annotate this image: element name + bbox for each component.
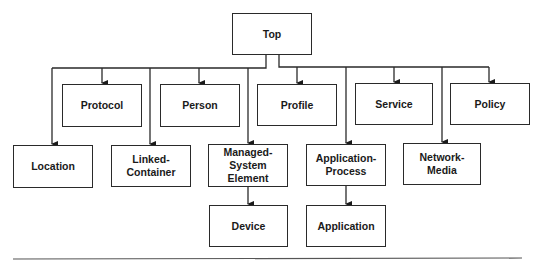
class-hierarchy-diagram: Top Protocol Person Profile Service Poli… xyxy=(0,0,544,264)
node-person: Person xyxy=(160,84,240,127)
node-label: Application xyxy=(317,220,374,233)
node-managed-system-element: Managed- System Element xyxy=(208,144,288,187)
node-top: Top xyxy=(232,13,312,55)
node-label: Application- Process xyxy=(316,152,377,178)
node-label: Protocol xyxy=(81,99,124,112)
node-protocol: Protocol xyxy=(62,84,142,127)
node-location: Location xyxy=(13,145,93,188)
node-network-media: Network- Media xyxy=(403,143,481,185)
node-service: Service xyxy=(355,83,433,125)
node-label: Location xyxy=(31,160,75,173)
node-application: Application xyxy=(306,205,386,247)
node-label: Person xyxy=(182,99,218,112)
node-device: Device xyxy=(209,205,288,247)
node-policy: Policy xyxy=(450,83,530,125)
node-application-process: Application- Process xyxy=(306,144,386,186)
node-profile: Profile xyxy=(257,84,337,126)
node-label: Policy xyxy=(475,98,506,111)
node-label: Managed- System Element xyxy=(223,146,272,185)
node-label: Top xyxy=(263,28,281,41)
node-label: Device xyxy=(232,220,266,233)
node-label: Linked- Container xyxy=(126,153,175,179)
node-label: Profile xyxy=(281,99,314,112)
node-linked-container: Linked- Container xyxy=(111,145,191,187)
node-label: Network- Media xyxy=(420,151,465,177)
node-label: Service xyxy=(375,98,412,111)
